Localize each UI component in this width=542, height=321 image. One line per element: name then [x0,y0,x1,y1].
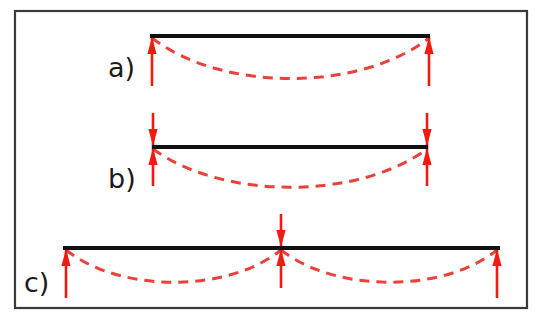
case-label-a: a) [108,52,135,83]
case-label-b: b) [108,163,136,194]
beam-diagram-figure: a)b)c) [0,0,542,321]
beam-diagram-canvas: a)b)c) [0,0,542,321]
case-label-c: c) [24,267,49,298]
figure-background [0,0,542,321]
